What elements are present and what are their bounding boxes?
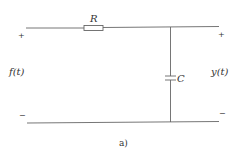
capacitor-label: C <box>177 73 185 84</box>
resistor-label: R <box>89 13 98 24</box>
figure-caption: a) <box>119 138 128 148</box>
resistor <box>84 26 103 31</box>
top-wire-right <box>103 27 219 28</box>
output-minus-sign: − <box>219 109 226 118</box>
input-signal-label: f(t) <box>8 66 25 77</box>
output-plus-sign: + <box>218 30 225 39</box>
output-signal-label: y(t) <box>210 66 229 77</box>
rc-circuit-diagram: R C f(t) y(t) + + − − a) <box>0 0 248 158</box>
input-minus-sign: − <box>19 111 26 120</box>
bottom-wire <box>27 122 219 124</box>
input-plus-sign: + <box>18 31 25 40</box>
